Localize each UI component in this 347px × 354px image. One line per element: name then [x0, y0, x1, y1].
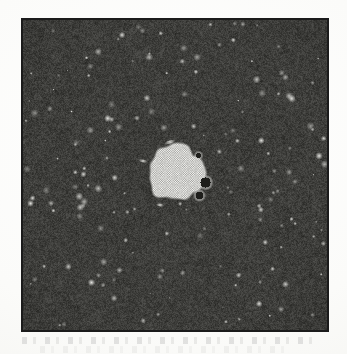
figure-root	[0, 0, 347, 354]
micrograph-image	[23, 20, 327, 330]
scan-ghost-strip	[22, 337, 314, 344]
scan-ghost-strip	[40, 346, 290, 353]
micrograph-panel[interactable]	[21, 18, 329, 332]
